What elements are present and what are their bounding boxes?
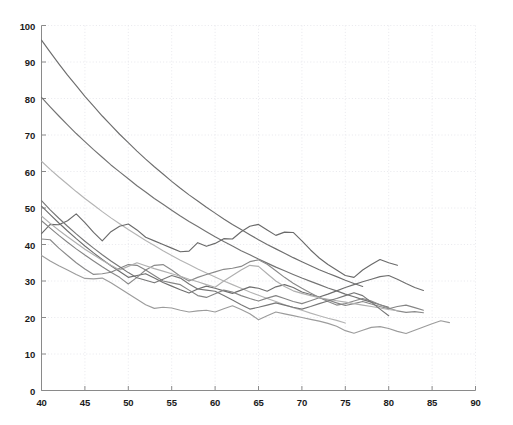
y-tick-label: 10	[5, 349, 35, 360]
y-tick-label: 90	[5, 57, 35, 68]
x-tick-label: 85	[427, 397, 437, 408]
x-tick-label: 40	[36, 397, 46, 408]
series-decay-3	[42, 161, 346, 323]
gridlines-group	[42, 26, 476, 391]
y-tick-label: 50	[5, 203, 35, 214]
y-tick-label: 70	[5, 130, 35, 141]
x-tick-label: 90	[470, 397, 480, 408]
y-tick-label: 80	[5, 93, 35, 104]
y-tick-label: 60	[5, 166, 35, 177]
line-chart-plot	[0, 0, 513, 425]
series-noisy-1	[42, 214, 398, 278]
y-tick-label: 40	[5, 239, 35, 250]
x-tick-label: 75	[340, 397, 350, 408]
x-tick-label: 70	[297, 397, 307, 408]
y-tick-label: 0	[5, 385, 35, 396]
y-tick-label: 20	[5, 312, 35, 323]
x-tick-label: 65	[253, 397, 263, 408]
y-tick-label: 30	[5, 276, 35, 287]
x-tick-label: 55	[167, 397, 177, 408]
x-tick-label: 50	[123, 397, 133, 408]
y-tick-label: 100	[5, 20, 35, 31]
x-tick-label: 45	[80, 397, 90, 408]
data-series-group	[42, 40, 450, 333]
x-tick-label: 60	[210, 397, 220, 408]
x-tick-label: 80	[384, 397, 394, 408]
series-noisy-5	[42, 221, 424, 310]
chart-figure: 0102030405060708090100 40455055606570758…	[0, 0, 513, 425]
